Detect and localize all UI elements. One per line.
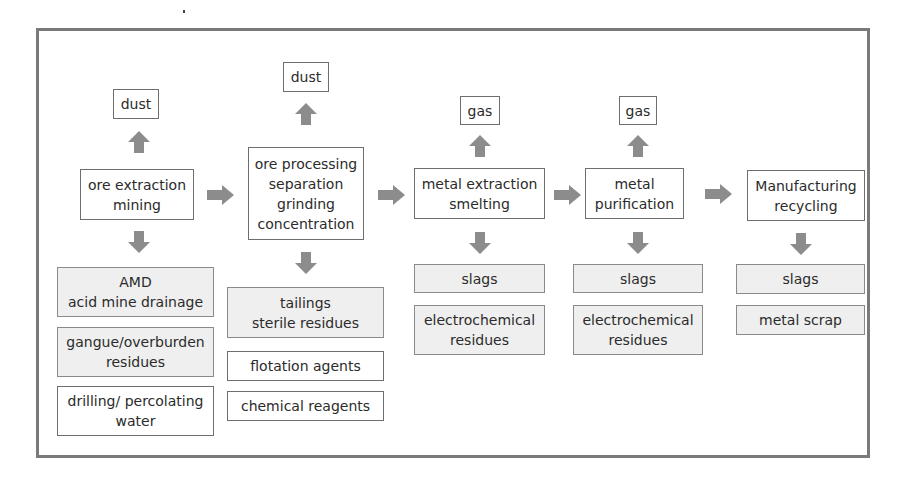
arrow-right-icon [378,185,405,205]
output-box-metal-scrap: metal scrap [736,305,865,335]
arrow-down-icon [469,232,491,254]
emission-box-stage-2: dust [283,62,329,92]
arrow-right-icon [554,185,581,205]
process-box-ore-processing: ore processing separation grinding conce… [248,147,364,240]
output-box-flotation-agents: flotation agents [227,351,384,381]
process-box-metal-purification: metal purification [585,168,684,219]
arrow-down-icon [128,231,150,253]
output-box-slags: slags [573,264,703,293]
output-box-tailings: tailings sterile residues [227,287,384,338]
arrow-up-icon [627,135,649,157]
stray-mark [183,10,185,13]
emission-box-stage-1: dust [113,89,159,119]
output-box-drilling-water: drilling/ percolating water [57,386,214,436]
output-box-slags: slags [736,264,865,294]
output-box-slags: slags [414,264,545,293]
output-box-amd: AMD acid mine drainage [57,267,214,317]
emission-box-stage-3: gas [460,96,500,125]
arrow-right-icon [207,185,234,205]
arrow-right-icon [705,184,732,204]
process-box-ore-extraction: ore extraction mining [80,169,194,220]
output-box-gangue: gangue/overburden residues [57,327,214,377]
arrow-up-icon [295,103,317,125]
arrow-down-icon [627,232,649,254]
output-box-electrochemical-residues: electrochemical residues [414,305,545,355]
process-box-metal-extraction: metal extraction smelting [414,168,545,219]
arrow-down-icon [295,252,317,274]
arrow-down-icon [790,233,812,255]
emission-box-stage-4: gas [619,96,657,125]
arrow-up-icon [128,131,150,153]
output-box-electrochemical-residues: electrochemical residues [573,305,703,355]
arrow-up-icon [469,135,491,157]
process-box-manufacturing-recycling: Manufacturing recycling [747,170,865,221]
output-box-chemical-reagents: chemical reagents [227,391,384,421]
